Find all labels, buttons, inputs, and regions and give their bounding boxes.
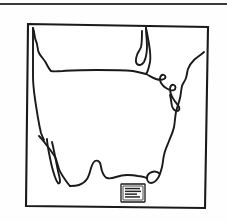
legend-text-line-2 (125, 191, 141, 193)
legend-text-line-1 (125, 188, 140, 190)
legend-text-line-4 (125, 196, 140, 198)
legend-text-line-3 (125, 193, 137, 195)
map-legend (121, 184, 145, 202)
map-border-frame (26, 24, 208, 208)
map-figure (0, 0, 227, 222)
figure-root: Outline map of the contiguous United Sta… (0, 0, 227, 222)
